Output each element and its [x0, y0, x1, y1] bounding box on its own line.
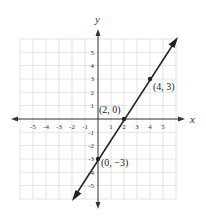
- coordinate-plane: x y -5 -4 -3 -2 -1 1 2 3 4 5 5 4 3 2 1 -…: [0, 0, 206, 224]
- y-tick: 4: [91, 62, 95, 70]
- point-4-3: [148, 77, 152, 81]
- x-tick: 5: [161, 123, 165, 131]
- y-axis-down-arrow-icon: [96, 202, 101, 209]
- x-tick: 3: [135, 123, 139, 131]
- point-label-4-3: (4, 3): [153, 81, 175, 93]
- y-tick: -1: [88, 129, 94, 137]
- x-tick: -3: [56, 123, 62, 131]
- point-2-0: [122, 117, 126, 121]
- x-tick: -2: [69, 123, 75, 131]
- x-axis-label: x: [189, 113, 195, 125]
- point-0-neg3: [96, 157, 100, 161]
- y-axis-label: y: [94, 13, 100, 25]
- y-tick: 5: [91, 49, 95, 57]
- y-tick: 3: [91, 75, 95, 83]
- y-tick: -2: [88, 142, 94, 150]
- x-axis-left-arrow-icon: [11, 117, 18, 122]
- y-tick: -5: [88, 182, 94, 190]
- point-label-0-neg3: (0, −3): [101, 157, 128, 169]
- x-tick: 2: [122, 123, 126, 131]
- x-tick: 1: [109, 123, 113, 131]
- x-tick: 4: [148, 123, 152, 131]
- x-tick: -4: [43, 123, 49, 131]
- y-tick: -3: [88, 155, 94, 163]
- point-label-2-0: (2, 0): [99, 104, 121, 116]
- y-tick: 1: [91, 102, 95, 110]
- y-tick: 2: [91, 89, 95, 97]
- x-tick: -5: [30, 123, 36, 131]
- x-axis-right-arrow-icon: [178, 117, 185, 122]
- y-axis-up-arrow-icon: [96, 29, 101, 36]
